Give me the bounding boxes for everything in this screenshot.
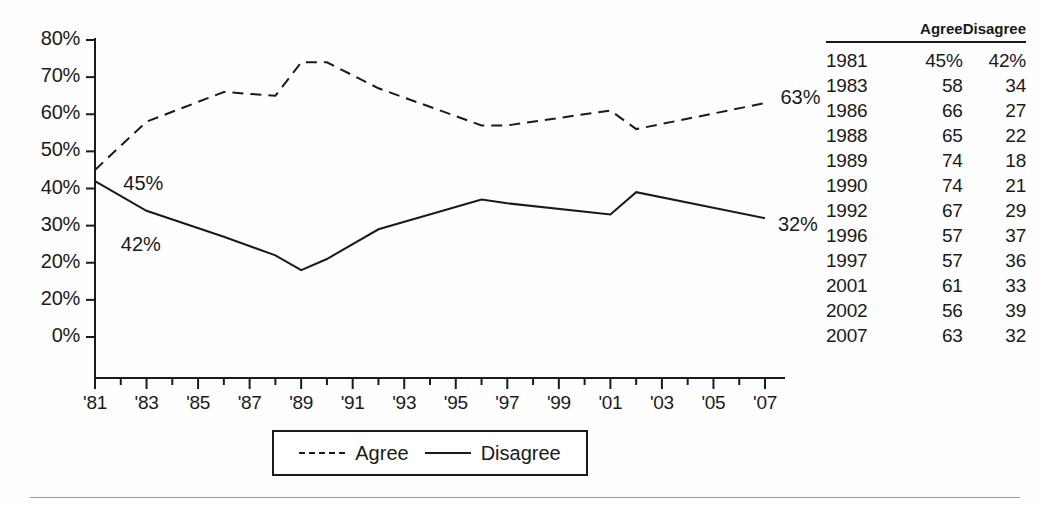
cell-year: 1988 — [826, 124, 911, 149]
cell-year: 1996 — [826, 224, 911, 249]
chart-plot-region: 80%70%60%50%40%30%20%20%0% '81'83'85'87'… — [0, 0, 800, 420]
x-axis-tick-label: '91 — [341, 392, 365, 414]
y-axis-label-group: 80%70%60%50%40%30%20%20%0% — [8, 0, 80, 380]
cell-disagree: 36 — [963, 249, 1026, 274]
y-axis-tick-label: 20% — [8, 250, 80, 273]
cell-year: 2007 — [826, 324, 911, 349]
y-axis-tick-label: 40% — [8, 176, 80, 199]
cell-year: 1997 — [826, 249, 911, 274]
table-header-row: Agree Disagree — [826, 20, 1026, 42]
cell-disagree: 37 — [963, 224, 1026, 249]
cell-disagree: 34 — [963, 74, 1026, 99]
x-axis-tick-label: '05 — [702, 392, 726, 414]
table-row: 19926729 — [826, 199, 1026, 224]
column-header-agree: Agree — [911, 20, 962, 42]
cell-disagree: 27 — [963, 99, 1026, 124]
y-axis-tick-label: 70% — [8, 64, 80, 87]
table-head: Agree Disagree — [826, 20, 1026, 42]
cell-agree: 58 — [911, 74, 962, 99]
y-axis-tick-label: 30% — [8, 213, 80, 236]
table-row: 19907421 — [826, 174, 1026, 199]
cell-disagree: 29 — [963, 199, 1026, 224]
y-axis-tick-label: 0% — [8, 324, 80, 347]
x-axis-tick-label: '07 — [753, 392, 777, 414]
table-row: 19975736 — [826, 249, 1026, 274]
cell-year: 1990 — [826, 174, 911, 199]
cell-year: 1986 — [826, 99, 911, 124]
table-row: 19835834 — [826, 74, 1026, 99]
data-table: Agree Disagree 198145%42%198358341986662… — [826, 20, 1026, 349]
table-row: 20076332 — [826, 324, 1026, 349]
cell-year: 1992 — [826, 199, 911, 224]
x-axis-tick-label: '99 — [547, 392, 571, 414]
series-line-agree — [95, 62, 765, 170]
x-axis-tick-label: '01 — [598, 392, 622, 414]
column-header-disagree: Disagree — [963, 20, 1026, 42]
table-row: 19886522 — [826, 124, 1026, 149]
cell-disagree: 22 — [963, 124, 1026, 149]
cell-year: 1981 — [826, 42, 911, 74]
y-axis-tick-label: 20% — [8, 287, 80, 310]
y-axis-tick-label: 50% — [8, 138, 80, 161]
cell-disagree: 42% — [963, 42, 1026, 74]
line-chart-svg — [0, 0, 800, 420]
table-row: 19866627 — [826, 99, 1026, 124]
table-row: 198145%42% — [826, 42, 1026, 74]
y-axis-tick-label: 80% — [8, 27, 80, 50]
point-value-annotation: 32% — [778, 213, 818, 236]
cell-agree: 74 — [911, 149, 962, 174]
x-axis-tick-label: '81 — [83, 392, 107, 414]
legend-entry-agree: Agree — [299, 442, 408, 465]
cell-disagree: 21 — [963, 174, 1026, 199]
cell-agree: 57 — [911, 249, 962, 274]
solid-line-swatch-icon — [425, 452, 471, 454]
y-axis-tick-label: 60% — [8, 101, 80, 124]
chart-legend: Agree Disagree — [272, 430, 588, 476]
chart-page: 80%70%60%50%40%30%20%20%0% '81'83'85'87'… — [0, 0, 1044, 508]
x-axis-tick-label: '85 — [186, 392, 210, 414]
cell-agree: 66 — [911, 99, 962, 124]
x-axis-tick-label: '93 — [392, 392, 416, 414]
y-axis-ticks — [86, 40, 95, 337]
point-value-annotation: 63% — [780, 86, 820, 109]
table-row: 20025639 — [826, 299, 1026, 324]
cell-year: 1983 — [826, 74, 911, 99]
cell-agree: 45% — [911, 42, 962, 74]
values-table: Agree Disagree 198145%42%198358341986662… — [826, 20, 1026, 349]
x-axis-tick-label: '95 — [444, 392, 468, 414]
x-axis-tick-label: '87 — [238, 392, 262, 414]
cell-disagree: 33 — [963, 274, 1026, 299]
cell-disagree: 32 — [963, 324, 1026, 349]
point-value-annotation: 42% — [121, 233, 161, 256]
series-line-disagree — [95, 181, 765, 270]
x-axis-tick-label: '97 — [495, 392, 519, 414]
cell-disagree: 39 — [963, 299, 1026, 324]
x-axis-tick-label: '83 — [135, 392, 159, 414]
legend-label-disagree: Disagree — [481, 442, 561, 465]
x-axis-label-group: '81'83'85'87'89'91'93'95'97'99'01'03'05'… — [0, 386, 800, 420]
cell-agree: 63 — [911, 324, 962, 349]
cell-agree: 61 — [911, 274, 962, 299]
x-axis-tick-label: '89 — [289, 392, 313, 414]
cell-agree: 57 — [911, 224, 962, 249]
point-value-annotation: 45% — [123, 172, 163, 195]
x-axis-tick-label: '03 — [650, 392, 674, 414]
cell-agree: 56 — [911, 299, 962, 324]
cell-year: 1989 — [826, 149, 911, 174]
cell-agree: 74 — [911, 174, 962, 199]
cell-year: 2002 — [826, 299, 911, 324]
bottom-divider — [30, 497, 1020, 498]
legend-label-agree: Agree — [355, 442, 408, 465]
table-row: 20016133 — [826, 274, 1026, 299]
table-row: 19965737 — [826, 224, 1026, 249]
cell-agree: 67 — [911, 199, 962, 224]
cell-year: 2001 — [826, 274, 911, 299]
legend-entry-disagree: Disagree — [425, 442, 561, 465]
dashed-line-swatch-icon — [299, 452, 345, 454]
column-header-year — [826, 20, 911, 42]
cell-agree: 65 — [911, 124, 962, 149]
table-row: 19897418 — [826, 149, 1026, 174]
table-body: 198145%42%198358341986662719886522198974… — [826, 42, 1026, 349]
cell-disagree: 18 — [963, 149, 1026, 174]
